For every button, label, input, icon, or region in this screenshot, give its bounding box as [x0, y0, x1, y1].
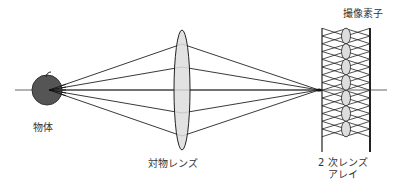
ray-incoming [49, 90, 182, 113]
secondary-lens-array-label-line1: 2 次レンズ [318, 157, 368, 169]
secondary-lens-array-label: 2 次レンズ アレイ [318, 157, 368, 181]
lenslet [342, 90, 351, 106]
secondary-lens-array-label-line2: アレイ [318, 169, 368, 181]
lenslet [342, 59, 351, 75]
object-label: 物体 [33, 122, 53, 134]
ray-outgoing [182, 67, 319, 90]
lenslet [342, 75, 351, 91]
lenslet [342, 28, 351, 44]
ray-outgoing [182, 90, 319, 113]
objective-lens-label: 対物レンズ [148, 158, 198, 170]
ray-incoming [49, 67, 182, 90]
focal-point [316, 89, 322, 92]
ray-outgoing [182, 44, 319, 90]
ray-outgoing [182, 90, 319, 136]
lenslet [342, 121, 351, 137]
lenslet [342, 44, 351, 60]
image-sensor-label: 撮像素子 [343, 8, 383, 20]
ray-incoming [49, 90, 182, 136]
ray-incoming [49, 44, 182, 90]
objective-lens [174, 30, 190, 150]
lenslet [342, 106, 351, 122]
